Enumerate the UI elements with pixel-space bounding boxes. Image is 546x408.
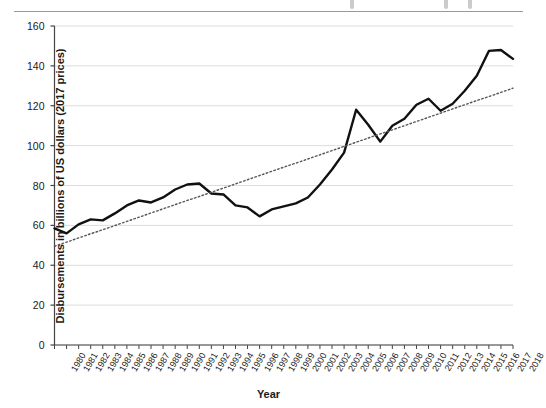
y-tick-label: 20 [11, 300, 45, 310]
y-tick-label: 0 [11, 340, 45, 350]
y-tick-label: 120 [11, 101, 45, 111]
x-axis-title: Year [0, 388, 537, 400]
gridlines-group [55, 26, 514, 345]
y-tick-label: 140 [11, 61, 45, 71]
data-series-group [55, 50, 514, 246]
series-line-disbursements [55, 50, 514, 233]
y-tick-label: 80 [11, 181, 45, 191]
y-axis-title: Disbursements in billions of US dollars … [54, 21, 66, 351]
y-tick-label: 160 [11, 21, 45, 31]
series-line-linear-trend [55, 88, 514, 246]
y-tick-label: 100 [11, 141, 45, 151]
y-tick-label: 40 [11, 260, 45, 270]
y-tick-label: 60 [11, 220, 45, 230]
